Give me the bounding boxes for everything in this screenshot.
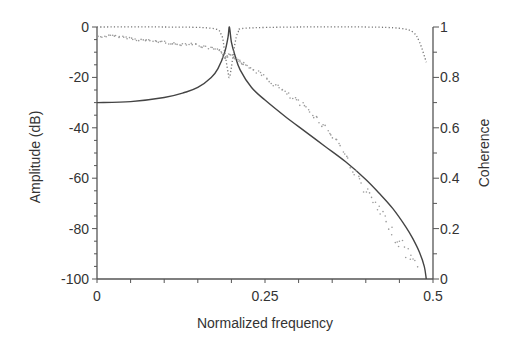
measured-point bbox=[353, 174, 355, 176]
measured-point bbox=[385, 221, 387, 223]
measured-point bbox=[237, 59, 239, 61]
measured-point bbox=[222, 54, 224, 56]
right-tick-label: 1 bbox=[440, 19, 448, 35]
measured-point bbox=[136, 40, 138, 42]
theoretical-amplitude-line bbox=[97, 27, 426, 279]
measured-point bbox=[258, 70, 260, 72]
measured-point bbox=[239, 59, 241, 61]
measured-point bbox=[329, 133, 331, 135]
measured-point bbox=[191, 44, 193, 46]
measured-point bbox=[344, 153, 346, 155]
measured-point bbox=[164, 40, 166, 42]
right-tick-label: 0.8 bbox=[440, 69, 460, 85]
measured-point bbox=[366, 191, 368, 193]
measured-point bbox=[399, 240, 401, 242]
measured-point bbox=[296, 99, 298, 101]
measured-point bbox=[205, 45, 207, 47]
x-axis-title: Normalized frequency bbox=[197, 315, 333, 331]
measured-point bbox=[213, 48, 215, 50]
measured-point bbox=[367, 188, 369, 190]
measured-point bbox=[248, 67, 250, 69]
measured-point bbox=[243, 62, 245, 64]
measured-point bbox=[138, 40, 140, 42]
measured-point bbox=[349, 167, 351, 169]
measured-point bbox=[343, 151, 345, 153]
measured-point bbox=[149, 40, 151, 42]
measured-point bbox=[410, 258, 412, 260]
measured-point bbox=[371, 197, 373, 199]
measured-point bbox=[282, 89, 284, 91]
measured-point bbox=[363, 191, 365, 193]
measured-point bbox=[295, 97, 297, 99]
measured-point bbox=[377, 209, 379, 211]
left-tick-label: -40 bbox=[69, 120, 89, 136]
measured-point bbox=[101, 37, 103, 39]
measured-point bbox=[289, 97, 291, 99]
measured-point bbox=[165, 42, 167, 44]
measured-point bbox=[268, 81, 270, 83]
measured-point bbox=[391, 226, 393, 228]
measured-point bbox=[115, 35, 117, 37]
measured-point bbox=[299, 105, 301, 107]
measured-point bbox=[182, 43, 184, 45]
measured-point bbox=[404, 246, 406, 248]
measured-point bbox=[321, 126, 323, 128]
right-tick-label: 0.2 bbox=[440, 221, 460, 237]
measured-point bbox=[172, 43, 174, 45]
measured-point bbox=[322, 124, 324, 126]
measured-point bbox=[384, 215, 386, 217]
measured-point bbox=[398, 246, 400, 248]
measured-point bbox=[270, 83, 272, 85]
measured-point bbox=[159, 41, 161, 43]
measured-point bbox=[336, 139, 338, 141]
measured-point bbox=[195, 43, 197, 45]
measured-point bbox=[324, 125, 326, 127]
measured-point bbox=[309, 111, 311, 113]
measured-point bbox=[284, 90, 286, 92]
measured-point bbox=[394, 242, 396, 244]
measured-point bbox=[313, 117, 315, 119]
coherence-line bbox=[97, 27, 426, 78]
measured-point bbox=[180, 45, 182, 47]
measured-point bbox=[352, 171, 354, 173]
measured-point bbox=[359, 178, 361, 180]
measured-point bbox=[277, 84, 279, 86]
measured-point bbox=[156, 41, 158, 43]
measured-point bbox=[298, 99, 300, 101]
measured-point bbox=[275, 84, 277, 86]
measured-point bbox=[292, 98, 294, 100]
measured-point bbox=[318, 122, 320, 124]
measured-point bbox=[168, 43, 170, 45]
measured-point bbox=[312, 115, 314, 117]
measured-point bbox=[302, 102, 304, 104]
left-tick-label: -20 bbox=[69, 69, 89, 85]
left-tick-label: -100 bbox=[61, 271, 89, 287]
measured-point bbox=[405, 257, 407, 259]
measured-point bbox=[112, 35, 114, 37]
measured-point bbox=[410, 254, 412, 256]
measured-point bbox=[417, 266, 419, 268]
measured-point bbox=[355, 170, 357, 172]
measured-point bbox=[140, 39, 142, 41]
measured-point bbox=[118, 36, 120, 38]
bottom-tick-label: 0 bbox=[93, 288, 101, 304]
measured-point bbox=[145, 39, 147, 41]
measured-point bbox=[217, 48, 219, 50]
measured-point bbox=[272, 85, 274, 87]
measured-point bbox=[161, 41, 163, 43]
measured-point bbox=[330, 134, 332, 136]
measured-point bbox=[266, 78, 268, 80]
measured-point bbox=[211, 47, 213, 49]
measured-point bbox=[208, 48, 210, 50]
measured-point bbox=[388, 228, 390, 230]
measured-point bbox=[278, 87, 280, 89]
measured-point bbox=[134, 38, 136, 40]
measured-point bbox=[339, 145, 341, 147]
measured-point bbox=[214, 48, 216, 50]
left-tick-label: -60 bbox=[69, 170, 89, 186]
measured-point bbox=[316, 117, 318, 119]
right-tick-label: 0.4 bbox=[440, 170, 460, 186]
measured-point bbox=[218, 50, 220, 52]
measured-point bbox=[382, 211, 384, 213]
measured-point bbox=[396, 241, 398, 243]
